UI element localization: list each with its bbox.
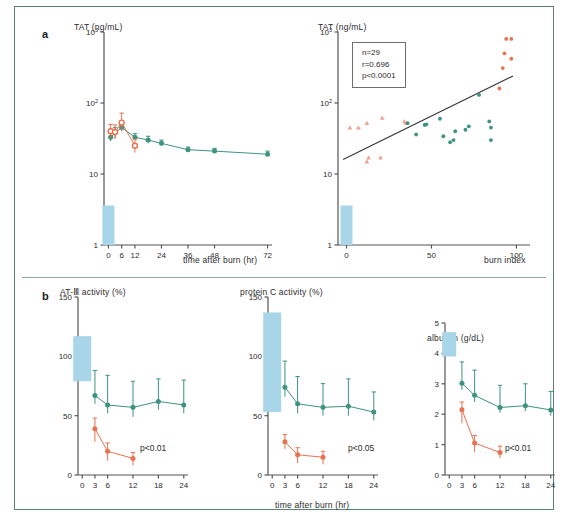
x-tick-label: 18 bbox=[521, 481, 530, 490]
y-tick-label: 102 bbox=[86, 98, 98, 109]
series-survivors bbox=[459, 362, 553, 416]
y-tick-label: 0 bbox=[258, 471, 263, 480]
x-tick-label: 24 bbox=[546, 481, 555, 490]
data-point-circle bbox=[186, 147, 191, 152]
y-tick-label: 4 bbox=[435, 349, 440, 358]
x-tick-label: 6 bbox=[105, 481, 110, 490]
reference-band bbox=[340, 206, 352, 245]
data-point-circle bbox=[295, 401, 300, 406]
x-tick-label: 0 bbox=[447, 481, 452, 490]
series-non-survivors bbox=[108, 113, 137, 152]
data-point-circle bbox=[467, 124, 471, 128]
x-tick-label: 48 bbox=[210, 251, 219, 260]
y-tick-label: 1 bbox=[435, 441, 440, 450]
x-tick-label: 24 bbox=[179, 481, 188, 490]
x-tick-label: 6 bbox=[472, 481, 477, 490]
chart-a-right: 103102101050100 bbox=[280, 0, 568, 270]
y-tick-label: 50 bbox=[253, 412, 262, 421]
data-point-circle bbox=[105, 449, 110, 454]
x-tick-label: 3 bbox=[460, 481, 465, 490]
data-point-circle bbox=[472, 441, 477, 446]
y-tick-label: 103 bbox=[86, 27, 98, 38]
chart-a-left: 103102101061224364872 bbox=[0, 0, 290, 270]
series-non-survivors bbox=[282, 435, 325, 465]
data-point-circle bbox=[156, 399, 161, 404]
x-tick-label: 0 bbox=[80, 481, 85, 490]
series-non-survivors bbox=[92, 418, 135, 465]
data-point-circle bbox=[92, 393, 97, 398]
series-line bbox=[95, 429, 133, 459]
chart-b-right-svg: 543210036121824 bbox=[380, 300, 568, 520]
chart-b-mid: 150100500036121824 bbox=[190, 275, 390, 520]
series-line bbox=[285, 442, 323, 457]
data-point-circle bbox=[92, 426, 97, 431]
data-point-circle bbox=[438, 117, 442, 121]
data-point-circle bbox=[477, 93, 481, 97]
series-line bbox=[462, 410, 500, 453]
data-point-circle bbox=[503, 51, 507, 55]
x-tick-label: 36 bbox=[184, 251, 193, 260]
y-tick-label: 100 bbox=[249, 352, 263, 361]
data-point-circle bbox=[321, 455, 326, 460]
data-point-circle bbox=[501, 66, 505, 70]
y-tick-label: 50 bbox=[63, 412, 72, 421]
regression-line bbox=[343, 76, 513, 160]
data-point-circle bbox=[489, 126, 493, 130]
x-tick-label: 12 bbox=[496, 481, 505, 490]
y-tick-label: 150 bbox=[249, 293, 263, 302]
x-tick-label: 18 bbox=[344, 481, 353, 490]
y-tick-label: 102 bbox=[320, 98, 332, 109]
data-point-circle bbox=[441, 134, 445, 138]
data-point-circle bbox=[489, 138, 493, 142]
x-tick-label: 0 bbox=[344, 251, 349, 260]
data-point-circle bbox=[498, 450, 503, 455]
data-point-circle bbox=[414, 133, 418, 137]
data-point-circle bbox=[346, 404, 351, 409]
data-point-triangle bbox=[365, 121, 370, 125]
reference-band bbox=[442, 332, 456, 356]
series-survivors bbox=[282, 361, 376, 420]
x-tick-label: 100 bbox=[510, 251, 524, 260]
y-tick-label: 150 bbox=[59, 293, 73, 302]
data-point-circle bbox=[472, 393, 477, 398]
data-point-circle bbox=[295, 452, 300, 457]
figure-root: a TAT (ng/mL) time after burn (hr) 10310… bbox=[0, 0, 568, 522]
data-point-triangle bbox=[378, 155, 383, 159]
x-tick-label: 72 bbox=[263, 251, 272, 260]
data-point-circle bbox=[265, 152, 270, 157]
chart-b-right: 543210036121824 bbox=[380, 300, 568, 520]
data-point-circle bbox=[464, 128, 468, 132]
series-mild bbox=[348, 115, 409, 163]
data-point-circle bbox=[321, 405, 326, 410]
data-point-circle-open bbox=[119, 120, 124, 125]
chart-a-left-svg: 103102101061224364872 bbox=[0, 0, 290, 270]
x-tick-label: 6 bbox=[295, 481, 300, 490]
data-point-circle bbox=[181, 402, 186, 407]
data-point-circle bbox=[406, 121, 410, 125]
series-survivors bbox=[108, 124, 270, 157]
data-point-triangle bbox=[366, 155, 371, 159]
y-tick-label: 103 bbox=[320, 27, 332, 38]
x-tick-label: 6 bbox=[119, 251, 124, 260]
y-tick-label: 10 bbox=[89, 170, 98, 179]
data-point-circle bbox=[131, 456, 136, 461]
series-moderate bbox=[406, 93, 493, 144]
data-point-circle bbox=[504, 37, 508, 41]
data-point-circle bbox=[548, 407, 553, 412]
data-point-circle bbox=[509, 57, 513, 61]
data-point-circle-open bbox=[113, 130, 118, 135]
data-point-circle bbox=[371, 410, 376, 415]
x-tick-label: 0 bbox=[270, 481, 275, 490]
data-point-circle bbox=[282, 439, 287, 444]
data-point-triangle bbox=[380, 115, 385, 119]
data-point-circle bbox=[146, 138, 151, 143]
series-line bbox=[285, 387, 374, 412]
x-tick-label: 3 bbox=[93, 481, 98, 490]
y-tick-label: 100 bbox=[59, 352, 73, 361]
x-tick-label: 24 bbox=[157, 251, 166, 260]
data-point-circle bbox=[523, 403, 528, 408]
y-tick-label: 0 bbox=[435, 471, 440, 480]
x-tick-label: 3 bbox=[283, 481, 288, 490]
y-tick-label: 10 bbox=[323, 170, 332, 179]
data-point-triangle bbox=[356, 125, 361, 129]
